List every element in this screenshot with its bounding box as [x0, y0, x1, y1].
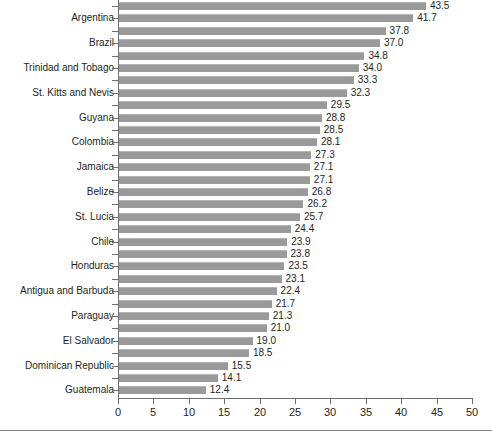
bar-row: 41.7 — [118, 14, 472, 22]
category-label: Trinidad and Tobago — [23, 63, 114, 73]
bar-value-label: 19.0 — [257, 335, 276, 347]
x-axis-tick — [295, 399, 296, 404]
bar-row: 28.1 — [118, 138, 472, 146]
bar-value-label: 28.1 — [321, 136, 340, 148]
bar-row: 29.5 — [118, 101, 472, 109]
bar-value-label: 28.8 — [326, 112, 345, 124]
x-axis-tick-label: 25 — [280, 406, 310, 418]
category-label: Belize — [87, 187, 114, 197]
plot-area: 43.541.7Argentina37.837.0Brazil34.834.0T… — [0, 0, 492, 400]
x-axis-tick — [224, 399, 225, 404]
bar-row: 43.5 — [118, 2, 472, 10]
category-label: Paraguay — [71, 311, 114, 321]
bar-row: 21.3 — [118, 312, 472, 320]
bar-value-label: 25.7 — [304, 211, 323, 223]
bar — [118, 151, 311, 159]
bar-value-label: 28.5 — [324, 124, 343, 136]
bar — [118, 64, 359, 72]
bar — [118, 126, 320, 134]
category-label: El Salvador — [63, 336, 114, 346]
category-label: Colombia — [72, 137, 114, 147]
bar — [118, 250, 287, 258]
bar — [118, 287, 277, 295]
bar-row: 26.8 — [118, 188, 472, 196]
bar — [118, 101, 327, 109]
x-axis-tick — [153, 399, 154, 404]
x-axis-tick — [260, 399, 261, 404]
bar — [118, 324, 267, 332]
bar — [118, 213, 300, 221]
category-label: Jamaica — [77, 162, 114, 172]
x-axis-tick-label: 40 — [386, 406, 416, 418]
bar-value-label: 37.0 — [384, 37, 403, 49]
bar-value-label: 24.4 — [295, 223, 314, 235]
category-label: St. Kitts and Nevis — [32, 88, 114, 98]
x-axis-tick-label: 45 — [422, 406, 452, 418]
bar-row: 23.5 — [118, 262, 472, 270]
bar-row: 32.3 — [118, 89, 472, 97]
bar — [118, 386, 206, 394]
bar-value-label: 32.3 — [351, 87, 370, 99]
category-label: Argentina — [71, 13, 114, 23]
bar-row: 34.0 — [118, 64, 472, 72]
bar-row: 21.0 — [118, 324, 472, 332]
category-label: Chile — [91, 237, 114, 247]
bar — [118, 52, 364, 60]
bar — [118, 163, 310, 171]
bar-row: 33.3 — [118, 76, 472, 84]
bar-row: 37.8 — [118, 27, 472, 35]
bar — [118, 300, 272, 308]
bar-value-label: 21.7 — [276, 298, 295, 310]
bar-row: 28.8 — [118, 114, 472, 122]
bar-value-label: 23.8 — [291, 248, 310, 260]
bar-value-label: 27.1 — [314, 161, 333, 173]
x-axis-tick-label: 20 — [245, 406, 275, 418]
bar-chart: 43.541.7Argentina37.837.0Brazil34.834.0T… — [0, 0, 492, 440]
bar — [118, 138, 317, 146]
bar-row: 26.2 — [118, 200, 472, 208]
category-label: Guatemala — [65, 385, 114, 395]
bar — [118, 39, 380, 47]
bar-value-label: 23.1 — [286, 273, 305, 285]
x-axis-tick-label: 30 — [315, 406, 345, 418]
bar-value-label: 23.5 — [288, 260, 307, 272]
category-label: Dominican Republic — [25, 361, 114, 371]
x-axis-tick-label: 15 — [209, 406, 239, 418]
bar-row: 25.7 — [118, 213, 472, 221]
bar — [118, 76, 354, 84]
bar-value-label: 23.9 — [291, 236, 310, 248]
bar — [118, 275, 282, 283]
bar-value-label: 12.4 — [210, 384, 229, 396]
x-axis-tick — [472, 399, 473, 404]
bar-value-label: 27.3 — [315, 149, 334, 161]
bar — [118, 337, 253, 345]
category-label: Antigua and Barbuda — [20, 286, 114, 296]
bar — [118, 200, 303, 208]
bar-value-label: 43.5 — [430, 0, 449, 12]
bar-value-label: 29.5 — [331, 99, 350, 111]
x-axis-tick — [330, 399, 331, 404]
bar-value-label: 34.8 — [368, 50, 387, 62]
bar-value-label: 41.7 — [417, 12, 436, 24]
bar — [118, 2, 426, 10]
bar — [118, 176, 310, 184]
x-axis-tick-label: 35 — [351, 406, 381, 418]
bar-row: 27.1 — [118, 176, 472, 184]
bar-row: 23.1 — [118, 275, 472, 283]
x-axis-tick — [189, 399, 190, 404]
bar-value-label: 18.5 — [253, 347, 272, 359]
bar-row: 23.8 — [118, 250, 472, 258]
bar-value-label: 27.1 — [314, 174, 333, 186]
bottom-divider — [0, 430, 492, 431]
bar-row: 21.7 — [118, 300, 472, 308]
y-axis-line — [118, 0, 119, 399]
bar — [118, 349, 249, 357]
x-axis-tick-label: 0 — [103, 406, 133, 418]
x-axis-tick-label: 5 — [138, 406, 168, 418]
bar-row: 23.9 — [118, 238, 472, 246]
bar — [118, 362, 228, 370]
category-label: Brazil — [89, 38, 114, 48]
bar-row: 19.0 — [118, 337, 472, 345]
category-label: St. Lucia — [75, 212, 114, 222]
bar-row: 18.5 — [118, 349, 472, 357]
